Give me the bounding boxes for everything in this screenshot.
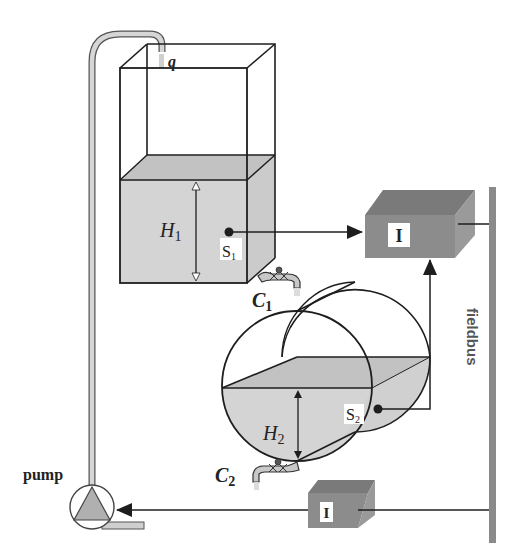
pump-label: pump <box>23 466 63 484</box>
c2-label: C2 <box>215 464 235 489</box>
controller-upper-label: I <box>395 226 402 246</box>
sensor-2-dot <box>374 405 383 414</box>
c1-label: C1 <box>252 289 272 314</box>
valve-2-icon <box>253 459 299 490</box>
fieldbus-label: fieldbus <box>464 308 481 366</box>
inflow-label: q <box>168 53 176 71</box>
controller-upper: I <box>365 190 490 258</box>
sensor-1-dot <box>225 228 234 237</box>
inflow-stream <box>159 54 164 68</box>
fieldbus-line <box>489 187 496 543</box>
process-diagram: q H1 S1 C1 I fieldbus <box>0 0 519 560</box>
controller-lower-label: I <box>324 505 330 521</box>
pump-icon <box>70 485 144 529</box>
controller-lower: I <box>308 480 489 528</box>
tank-1 <box>120 44 275 283</box>
